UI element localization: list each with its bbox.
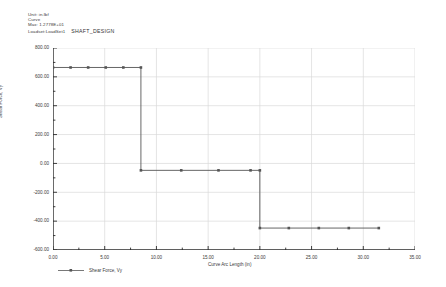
y-tick-label: 600.00: [19, 74, 49, 79]
x-tick-label: 25.00: [297, 255, 327, 260]
data-point-marker: [348, 227, 351, 230]
data-point-marker: [69, 66, 72, 69]
data-point-marker: [259, 227, 262, 230]
legend-label: Shear Force, Vy: [89, 268, 122, 273]
x-tick-label: 0.00: [38, 255, 68, 260]
data-point-marker: [378, 227, 381, 230]
y-axis-title: Shear Force, Vy: [0, 85, 3, 118]
x-tick-label: 30.00: [348, 255, 378, 260]
axis-tick-marks: [53, 48, 415, 250]
graph-header: Unit: in.lbf Curve Max: 1.2778E+01 Loads…: [28, 12, 115, 34]
data-point-marker: [122, 66, 125, 69]
data-series-shear-force: [53, 66, 380, 229]
header-loadset-row: Loadset:LoadSet1 SHAFT_DESIGN: [28, 28, 115, 34]
y-tick-label: 800.00: [19, 45, 49, 50]
x-tick-label: 5.00: [90, 255, 120, 260]
x-tick-label: 10.00: [141, 255, 171, 260]
x-tick-label: 35.00: [400, 255, 430, 260]
data-point-marker: [104, 66, 107, 69]
data-point-marker: [217, 169, 220, 172]
y-tick-label: 200.00: [19, 132, 49, 137]
header-loadset-line: Loadset:LoadSet1: [28, 29, 65, 34]
grid-lines: [53, 48, 415, 250]
data-point-marker: [140, 169, 143, 172]
data-point-marker: [140, 66, 143, 69]
y-tick-label: -400.00: [19, 218, 49, 223]
x-tick-label: 20.00: [245, 255, 275, 260]
page-title: SHAFT_DESIGN: [71, 28, 114, 34]
data-point-marker: [53, 66, 54, 69]
x-tick-label: 15.00: [193, 255, 223, 260]
chart-legend: Shear Force, Vy: [58, 267, 122, 274]
y-tick-label: 400.00: [19, 103, 49, 108]
x-axis-title: Curve Arc Length (in): [208, 262, 251, 267]
plot-canvas: [53, 48, 415, 250]
data-point-marker: [249, 169, 252, 172]
data-point-marker: [318, 227, 321, 230]
y-tick-label: -600.00: [19, 247, 49, 252]
series-line: [53, 67, 379, 228]
y-tick-label: -200.00: [19, 190, 49, 195]
shear-force-chart: [53, 48, 415, 250]
data-point-marker: [259, 169, 262, 172]
data-point-marker: [180, 169, 183, 172]
axis-frame: [53, 48, 415, 250]
legend-symbol-icon: [58, 267, 84, 274]
data-point-marker: [288, 227, 291, 230]
data-point-marker: [87, 66, 90, 69]
y-tick-label: 0.00: [19, 161, 49, 166]
